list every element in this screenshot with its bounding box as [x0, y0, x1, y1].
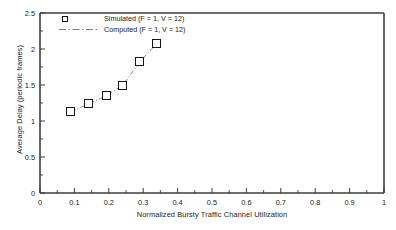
- x-tick-label: 0.6: [233, 198, 259, 207]
- y-axis-label: Average Delay (periodic frames): [15, 25, 24, 175]
- legend-label-computed: Computed (F = 1, V = 12): [102, 25, 186, 34]
- x-tick-label: 0.8: [302, 198, 328, 207]
- open-square-marker-icon: [58, 13, 102, 24]
- x-tick-label: 0.5: [199, 198, 225, 207]
- data-point-marker: [152, 39, 161, 48]
- data-point-marker: [102, 91, 111, 100]
- x-tick-label: 0.2: [96, 198, 122, 207]
- x-axis-label: Normalized Bursty Traffic Channel Utiliz…: [40, 210, 384, 219]
- chart-legend: Simulated (F = 1, V = 12) Computed (F = …: [58, 13, 186, 35]
- data-point-marker: [118, 81, 127, 90]
- x-tick-label: 0.1: [61, 198, 87, 207]
- legend-item-simulated: Simulated (F = 1, V = 12): [58, 13, 186, 24]
- chart-figure: 00.511.522.5 00.10.20.30.40.50.60.70.80.…: [0, 0, 396, 230]
- x-tick-label: 0: [27, 198, 53, 207]
- y-tick-label: 0: [9, 189, 35, 198]
- x-tick-label: 0.3: [130, 198, 156, 207]
- legend-label-simulated: Simulated (F = 1, V = 12): [102, 14, 184, 23]
- legend-item-computed: Computed (F = 1, V = 12): [58, 24, 186, 35]
- x-tick-label: 1: [371, 198, 396, 207]
- x-tick-label: 0.4: [165, 198, 191, 207]
- data-point-marker: [135, 57, 144, 66]
- dash-dot-line-icon: [58, 24, 102, 35]
- x-tick-label: 0.7: [268, 198, 294, 207]
- data-point-marker: [66, 107, 75, 116]
- data-point-marker: [84, 99, 93, 108]
- x-tick-label: 0.9: [337, 198, 363, 207]
- y-tick-label: 2.5: [9, 9, 35, 18]
